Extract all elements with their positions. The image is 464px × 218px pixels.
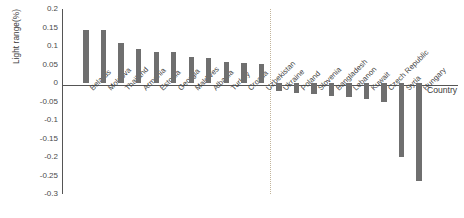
y-axis-tick-label: -0.15 bbox=[40, 135, 58, 143]
bar bbox=[189, 57, 194, 83]
y-axis-tick-label: 0.1 bbox=[47, 42, 58, 50]
y-axis-tick-label: -0.2 bbox=[44, 153, 58, 161]
x-axis-title: Country bbox=[427, 85, 457, 95]
y-axis-tick-label: -0.25 bbox=[40, 172, 58, 180]
bar bbox=[101, 30, 106, 83]
bar bbox=[294, 83, 299, 93]
bar bbox=[416, 83, 421, 181]
bar bbox=[154, 52, 159, 83]
y-axis-tick-label: 0 bbox=[54, 79, 58, 87]
y-axis-tick-label: 0.05 bbox=[42, 61, 58, 69]
bar bbox=[171, 52, 176, 83]
y-axis-tick-label: -0.3 bbox=[44, 190, 58, 198]
y-axis-title: Light range(%) bbox=[12, 0, 21, 79]
bar bbox=[224, 62, 229, 83]
y-axis-line bbox=[62, 9, 63, 194]
y-axis-tick-label: 0.15 bbox=[42, 24, 58, 32]
y-axis-tick-label: -0.1 bbox=[44, 116, 58, 124]
bar bbox=[206, 58, 211, 83]
y-axis-tick-labels: 0.20.150.10.050-0.05-0.1-0.15-0.2-0.25-0… bbox=[26, 0, 58, 218]
bar bbox=[399, 83, 404, 157]
sign-divider-line bbox=[270, 9, 271, 194]
plot-area: BelarusMoldovaThailandArmeniaEstoniaGeor… bbox=[62, 9, 458, 194]
bar bbox=[83, 30, 88, 83]
y-axis-tick-label: -0.05 bbox=[40, 98, 58, 106]
bar bbox=[241, 63, 246, 83]
bar bbox=[276, 83, 281, 91]
light-range-bar-chart: Light range(%) 0.20.150.10.050-0.05-0.1-… bbox=[0, 0, 464, 218]
bar bbox=[118, 43, 123, 83]
bar bbox=[136, 49, 141, 83]
y-axis-tick-label: 0.2 bbox=[47, 5, 58, 13]
bar bbox=[259, 64, 264, 83]
